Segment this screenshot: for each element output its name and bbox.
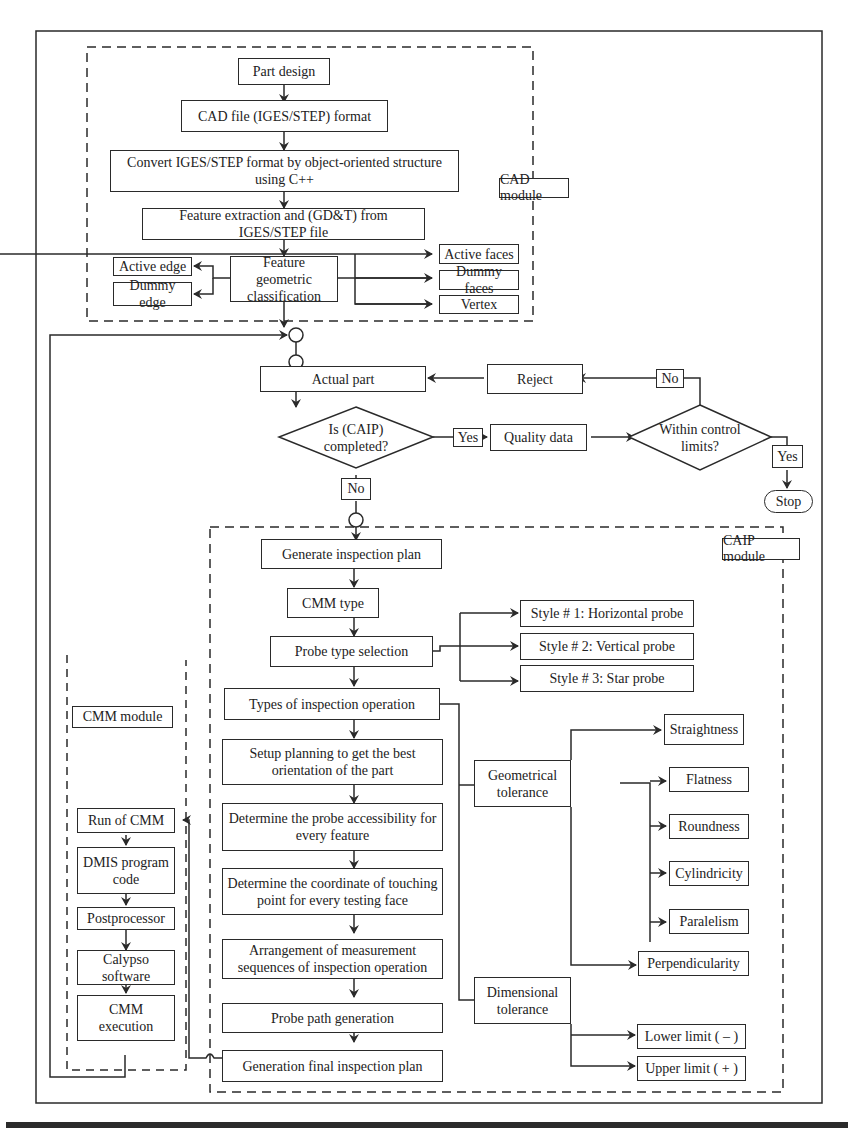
quality-data-node: Quality data [490, 424, 587, 451]
probe-accessibility-node: Determine the probe accessibility for ev… [222, 803, 443, 851]
stop-terminal: Stop [764, 490, 813, 513]
no-label-caip: No [341, 478, 371, 500]
types-operation-node: Types of inspection operation [224, 688, 440, 720]
roundness-node: Roundness [669, 814, 749, 839]
style2-node: Style # 2: Vertical probe [520, 633, 694, 660]
flatness-node: Flatness [669, 767, 749, 792]
yes-label-stop: Yes [772, 445, 803, 468]
calypso-node: Calypso software [77, 950, 175, 985]
bottom-rule [6, 1122, 848, 1128]
paralelism-node: Paralelism [669, 909, 749, 934]
setup-planning-node: Setup planning to get the best orientati… [222, 739, 443, 785]
geometrical-tolerance-node: Geometrical tolerance [474, 760, 571, 807]
postprocessor-node: Postprocessor [77, 907, 175, 930]
probe-path-node: Probe path generation [222, 1003, 443, 1033]
perpendicularity-node: Perpendicularity [638, 951, 749, 976]
style1-node: Style # 1: Horizontal probe [520, 600, 694, 627]
cmm-type-node: CMM type [287, 588, 379, 618]
probe-type-node: Probe type selection [270, 636, 433, 667]
yes-label-quality: Yes [453, 428, 483, 447]
run-cmm-node: Run of CMM [77, 808, 175, 833]
final-plan-node: Generation final inspection plan [222, 1050, 443, 1082]
cmm-execution-node: CMM execution [77, 995, 175, 1041]
dimensional-tolerance-node: Dimensional tolerance [474, 977, 571, 1024]
touching-point-node: Determine the coordinate of touching poi… [222, 868, 443, 915]
caip-completed-text: Is (CAIP) completed? [312, 420, 400, 456]
arrangement-node: Arrangement of measurement sequences of … [222, 939, 443, 979]
lower-limit-node: Lower limit ( – ) [637, 1024, 746, 1049]
cylindricity-node: Cylindricity [669, 861, 749, 886]
straightness-node: Straightness [664, 714, 744, 745]
generate-plan-node: Generate inspection plan [261, 539, 442, 569]
within-limits-text: Within control limits? [648, 420, 752, 456]
style3-node: Style # 3: Star probe [520, 665, 694, 692]
dmis-node: DMIS program code [77, 847, 175, 894]
upper-limit-node: Upper limit ( + ) [637, 1056, 746, 1081]
